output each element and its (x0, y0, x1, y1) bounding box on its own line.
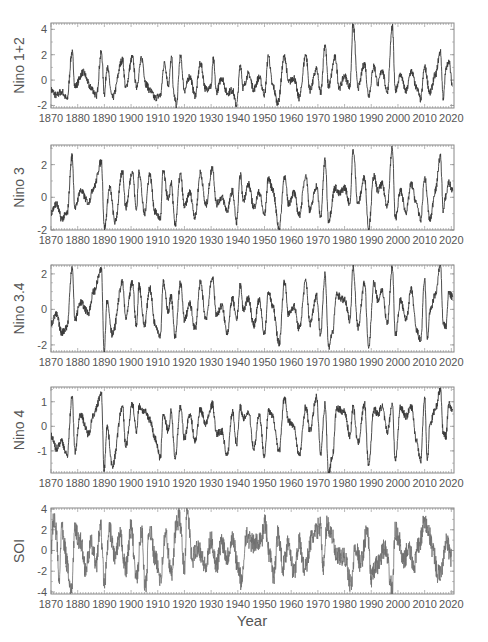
y-tick-label: 2 (41, 159, 47, 171)
x-tick-label: 1910 (146, 477, 170, 489)
x-tick-label: 1970 (306, 598, 330, 610)
x-tick-label: 2020 (439, 598, 463, 610)
x-tick-label: 1950 (252, 112, 276, 124)
x-tick-label: 1880 (65, 112, 89, 124)
x-tick-label: 1970 (306, 112, 330, 124)
y-tick-label: -2 (37, 224, 47, 236)
x-tick-label: 1870 (39, 112, 63, 124)
y-tick-label: 1 (41, 396, 47, 408)
x-tick-label: 1940 (226, 234, 250, 246)
x-tick-label: 1870 (39, 477, 63, 489)
y-tick-label: 0 (41, 544, 47, 556)
y-tick-label: 0 (41, 303, 47, 315)
x-tick-label: 1910 (146, 112, 170, 124)
x-tick-label: 1950 (252, 356, 276, 368)
x-tick-label: 1920 (172, 234, 196, 246)
series-line (51, 146, 453, 230)
panel-soi: 1870188018901900191019201930194019501960… (11, 503, 464, 610)
x-tick-label: 1890 (92, 477, 116, 489)
series-line (51, 388, 453, 473)
x-tick-label: 1920 (172, 598, 196, 610)
x-tick-label: 2010 (412, 598, 436, 610)
x-tick-label: 1880 (65, 234, 89, 246)
y-tick-label: -2 (37, 339, 47, 351)
x-tick-label: 1980 (332, 477, 356, 489)
y-tick-label: -2 (37, 565, 47, 577)
x-tick-label: 1990 (359, 598, 383, 610)
x-tick-label: 1940 (226, 356, 250, 368)
y-axis-label: Nino 3 (11, 167, 27, 208)
x-tick-label: 1970 (306, 356, 330, 368)
x-tick-label: 2000 (386, 598, 410, 610)
x-tick-label: 1930 (199, 598, 223, 610)
x-tick-label: 1920 (172, 356, 196, 368)
x-tick-label: 1890 (92, 234, 116, 246)
x-tick-label: 1880 (65, 356, 89, 368)
y-axis-label: Nino 1+2 (11, 37, 27, 94)
panel-nino-1-2: 1870188018901900191019201930194019501960… (11, 23, 464, 124)
x-tick-label: 2010 (412, 356, 436, 368)
x-tick-label: 1940 (226, 477, 250, 489)
y-axis-label: Nino 3.4 (11, 282, 27, 334)
x-tick-label: 2000 (386, 356, 410, 368)
x-tick-label: 1900 (119, 477, 143, 489)
stacked-time-series-figure: 1870188018901900191019201930194019501960… (0, 0, 488, 642)
x-tick-label: 2020 (439, 234, 463, 246)
x-tick-label: 2020 (439, 477, 463, 489)
x-tick-label: 1900 (119, 356, 143, 368)
y-tick-label: -1 (37, 445, 47, 457)
x-tick-label: 1890 (92, 356, 116, 368)
x-tick-label: 1980 (332, 356, 356, 368)
x-tick-label: 1990 (359, 112, 383, 124)
x-tick-label: 1920 (172, 477, 196, 489)
x-tick-label: 1880 (65, 598, 89, 610)
panel-nino-3-4: 1870188018901900191019201930194019501960… (11, 265, 464, 368)
y-axis-label: Nino 4 (11, 410, 27, 451)
x-tick-label: 1990 (359, 356, 383, 368)
series-line (51, 508, 451, 594)
x-tick-label: 1950 (252, 234, 276, 246)
y-tick-label: 0 (41, 74, 47, 86)
x-tick-label: 1940 (226, 112, 250, 124)
y-tick-label: 4 (41, 23, 47, 35)
y-tick-label: 4 (41, 503, 47, 515)
x-tick-label: 1930 (199, 356, 223, 368)
x-tick-label: 1970 (306, 477, 330, 489)
x-tick-label: 2020 (439, 356, 463, 368)
x-tick-label: 1950 (252, 477, 276, 489)
x-tick-label: 1950 (252, 598, 276, 610)
x-tick-label: 2010 (412, 477, 436, 489)
x-tick-label: 1960 (279, 598, 303, 610)
x-tick-label: 1960 (279, 234, 303, 246)
x-tick-label: 1940 (226, 598, 250, 610)
x-tick-label: 1990 (359, 234, 383, 246)
x-tick-label: 2010 (412, 112, 436, 124)
y-tick-label: 2 (41, 268, 47, 280)
x-tick-label: 1890 (92, 598, 116, 610)
y-tick-label: -2 (37, 99, 47, 111)
x-tick-label: 1980 (332, 234, 356, 246)
x-tick-label: 1930 (199, 477, 223, 489)
x-tick-label: 1880 (65, 477, 89, 489)
y-tick-label: 0 (41, 420, 47, 432)
x-tick-label: 1910 (146, 356, 170, 368)
x-tick-label: 1960 (279, 112, 303, 124)
panels-container: 1870188018901900191019201930194019501960… (11, 23, 464, 610)
x-tick-label: 1900 (119, 112, 143, 124)
x-tick-label: 1870 (39, 598, 63, 610)
x-tick-label: 2000 (386, 112, 410, 124)
x-tick-label: 1900 (119, 234, 143, 246)
x-tick-label: 1990 (359, 477, 383, 489)
x-tick-label: 1980 (332, 112, 356, 124)
x-tick-label: 2010 (412, 234, 436, 246)
panel-nino-4: 1870188018901900191019201930194019501960… (11, 387, 464, 489)
x-tick-label: 1900 (119, 598, 143, 610)
x-tick-label: 1870 (39, 356, 63, 368)
y-axis-label: SOI (11, 539, 27, 563)
y-tick-label: -4 (37, 586, 47, 598)
y-tick-label: 2 (41, 524, 47, 536)
x-tick-label: 2000 (386, 477, 410, 489)
x-tick-label: 1930 (199, 234, 223, 246)
x-tick-label: 2020 (439, 112, 463, 124)
panel-nino-3: 1870188018901900191019201930194019501960… (11, 145, 464, 246)
